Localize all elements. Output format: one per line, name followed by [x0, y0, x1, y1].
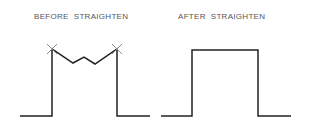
before-straighten-figure — [20, 49, 150, 116]
after-outline — [161, 50, 291, 116]
after-straighten-figure — [161, 50, 291, 116]
diagram-canvas — [0, 0, 313, 125]
before-outline — [20, 49, 150, 116]
